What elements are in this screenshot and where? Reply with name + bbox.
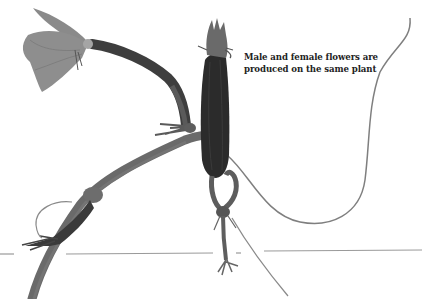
tendril-right xyxy=(228,18,410,223)
plant-illustration xyxy=(0,0,422,299)
ground-line xyxy=(0,250,422,254)
stem-node xyxy=(83,187,103,203)
tendril-lower xyxy=(232,218,288,296)
junction-bracts xyxy=(155,124,188,135)
male-flower xyxy=(23,8,93,92)
male-flower-stalk xyxy=(92,44,186,125)
caption-line-1: Male and female flowers are xyxy=(244,51,378,63)
caption-line-2: produced on the same plant xyxy=(244,63,378,75)
plant-photo: Male and female flowers are produced on … xyxy=(0,0,422,299)
female-flower xyxy=(198,18,238,275)
main-stem xyxy=(32,134,212,299)
caption: Male and female flowers are produced on … xyxy=(244,51,378,75)
